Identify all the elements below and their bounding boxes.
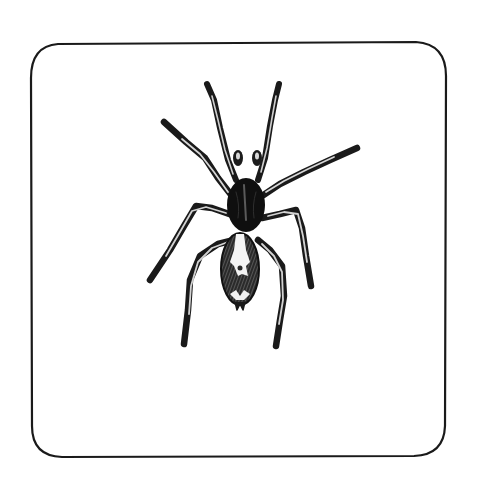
leg-second-right: [262, 148, 357, 196]
illustration-canvas: [0, 0, 479, 491]
leg-back-right: [258, 240, 284, 346]
pedipalps: [233, 150, 262, 166]
spider-illustration: [0, 0, 479, 491]
spider: [150, 84, 357, 346]
